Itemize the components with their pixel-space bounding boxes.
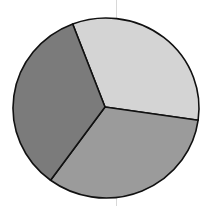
pie-slices: [13, 18, 199, 198]
pie-chart: [0, 0, 211, 206]
